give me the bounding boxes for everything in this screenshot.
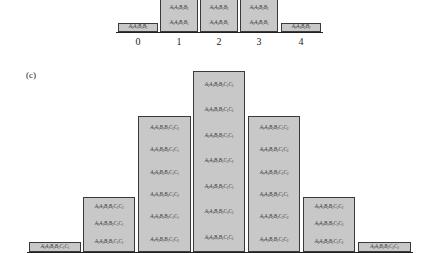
genotype-cell: A1A2B1B2C1C1 — [150, 214, 179, 220]
panel-b-tick-2: 2 — [209, 36, 229, 47]
panel-c-bar-0: A1A1B1B1C1C1 — [29, 242, 81, 252]
genotype-cell: A1A1B1B2C1C1 — [95, 221, 124, 227]
panel-b-tick-3: 3 — [249, 36, 269, 47]
genotype-cell: A1A2B1B1C1C1 — [95, 239, 124, 245]
genotype-cell: A1A1B2B2C1C2 — [205, 82, 234, 88]
panel-b-tick-0: 0 — [128, 36, 148, 47]
panel-b-tick-1: 1 — [169, 36, 189, 47]
panel-c-bar-3: A1A1B2B2C1C2 A1A2B1B2C1C2 A1A2B2B2C1C1 A… — [193, 71, 245, 252]
genotype-cell: A2A2B1B2C1C2 — [260, 147, 289, 153]
genotype-cell: A1A1B2B2 — [170, 5, 189, 11]
panel-b-bar-0: A1A1B1B1 — [118, 23, 158, 32]
genotype-cell: A2A2B1B2C2C2 — [315, 221, 344, 227]
panel-b-bar-2: A1A2B1B2 A1A2B1B1 — [200, 0, 238, 32]
genotype-cell: A1A1B1B2C2C2 — [205, 209, 234, 215]
genotype-cell: A2A2B1B1 — [250, 20, 269, 26]
genotype-cell: A1A2B1B2C1C2 — [205, 107, 234, 113]
genotype-cell: A1A2B2B2 — [250, 5, 269, 11]
genotype-cell: A2A2B2B2C1C1 — [260, 192, 289, 198]
genotype-cell: A1A1B2B2C2C2 — [260, 214, 289, 220]
panel-c-label: (c) — [26, 70, 36, 80]
genotype-cell: A1A2B2B2C2C2 — [315, 204, 344, 210]
panel-c-bar-4: A1A2B2B2C1C2 A2A2B1B2C1C2 A1A2B1B2C2C2 A… — [248, 116, 300, 252]
panel-b-bar-3: A1A2B2B2 A2A2B1B1 — [240, 0, 278, 32]
panel-b-tick-4: 4 — [291, 36, 311, 47]
panel-b-bar-1: A1A1B2B2 A1A2B1B1 — [160, 0, 198, 32]
genotype-cell: A1A1B2B2C1C1 — [150, 147, 179, 153]
genotype-cell: A1A2B1B1 — [210, 20, 229, 26]
genotype-cell: A1A2B1B1C1C2 — [150, 237, 179, 243]
genotype-cell: A1A1B1B1 — [129, 24, 148, 30]
panel-b-bar-4: A2A2B2B2 — [281, 23, 321, 32]
genotype-cell: A1A2B1B1C2C2 — [205, 158, 234, 164]
genotype-cell: A2A2B2B2 — [292, 24, 311, 30]
panel-c-bar-2: A1A1B1B1C2C2 A1A1B2B2C1C1 A2A2B1B1C1C1 A… — [138, 116, 191, 252]
genotype-cell: A2A2B1B1C1C1 — [150, 170, 179, 176]
genotype-cell: A1A1B1B1C2C2 — [150, 125, 179, 131]
genotype-cell: A1A1B1B1C1C2 — [95, 204, 124, 210]
genotype-cell: A1A2B1B1 — [170, 20, 189, 26]
panel-c-bar-5: A1A2B2B2C2C2 A2A2B1B2C2C2 A2A2B2B2C1C2 — [303, 197, 355, 252]
genotype-cell: A1A2B2B2C1C2 — [260, 125, 289, 131]
genotype-cell: A1A2B2B2C1C1 — [205, 133, 234, 139]
genotype-cell: A1A2B1B2 — [210, 5, 229, 11]
genotype-cell: A1A1B1B2C1C2 — [150, 192, 179, 198]
genotype-cell: A2A2B1B1C2C2 — [260, 237, 289, 243]
panel-c-bar-1: A1A1B1B1C1C2 A1A1B1B2C1C1 A1A2B1B1C1C1 — [83, 197, 135, 252]
panel-c-bar-6: A2A2B2B2C2C2 — [358, 242, 411, 252]
genotype-cell: A2A2B2B2C2C2 — [370, 244, 399, 250]
panel-b-baseline — [116, 32, 323, 33]
genotype-cell: A1A2B1B2C2C2 — [260, 170, 289, 176]
genotype-cell: A2A2B2B2C1C2 — [315, 239, 344, 245]
genotype-cell: A2A2B1B1C1C2 — [205, 235, 234, 241]
genotype-cell: A2A2B1B2C1C1 — [205, 184, 234, 190]
genotype-cell: A1A1B1B1C1C1 — [41, 244, 70, 250]
